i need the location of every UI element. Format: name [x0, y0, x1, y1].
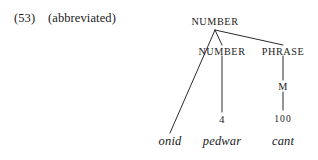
tree-node-m-feature: M — [278, 81, 287, 92]
tree-node-number-inner: NUMBER — [198, 46, 245, 57]
tree-node-number-root: NUMBER — [191, 16, 238, 27]
figure-canvas: (53) (abbreviated) NUMBER NUMBER PHRASE … — [0, 0, 318, 160]
tree-terminal-onid: onid — [159, 134, 182, 149]
example-gloss-label: (abbreviated) — [48, 11, 116, 26]
tree-node-numeral-100: 100 — [274, 113, 292, 124]
tree-terminal-pedwar: pedwar — [203, 134, 241, 149]
branch-root-to-phrase — [215, 30, 283, 45]
example-number: (53) — [14, 11, 35, 26]
tree-node-numeral-4: 4 — [219, 113, 225, 125]
tree-terminal-cant: cant — [272, 134, 294, 149]
branch-root-to-number — [215, 30, 222, 45]
tree-node-phrase: PHRASE — [262, 46, 305, 57]
